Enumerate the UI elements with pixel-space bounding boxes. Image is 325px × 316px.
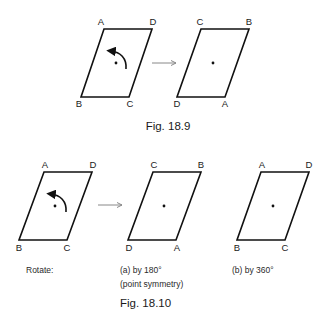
vertex-label: A — [98, 16, 105, 27]
vertex-label: A — [259, 159, 266, 170]
parallelogram-original: A D B C — [76, 16, 157, 109]
vertex-label: A — [222, 98, 229, 109]
vertex-label: B — [198, 159, 204, 170]
vertex-label: C — [197, 16, 204, 27]
diagram-canvas: A D B C C B D A Fig. 18.9 A D B C — [0, 0, 325, 316]
rotation-180-label: (a) by 180° — [120, 265, 162, 275]
center-point — [212, 62, 215, 65]
center-point — [115, 62, 118, 65]
center-point — [163, 205, 166, 208]
vertex-label: C — [151, 159, 158, 170]
vertex-label: A — [174, 242, 181, 253]
figure-caption: Fig. 18.9 — [146, 120, 191, 132]
parallelogram-original: A D B C — [16, 159, 97, 253]
vertex-label: B — [76, 98, 82, 109]
rotation-arrow-icon — [51, 194, 66, 212]
parallelogram-rotated: C B D A — [174, 16, 253, 109]
vertex-label: C — [282, 242, 289, 253]
vertex-label: C — [64, 242, 71, 253]
center-point — [54, 205, 57, 208]
parallelogram-rotated-180: C B D A — [126, 159, 205, 253]
vertex-label: D — [126, 242, 133, 253]
vertex-label: D — [306, 159, 313, 170]
rotation-arrow-icon — [111, 51, 126, 69]
fig-18-9: A D B C C B D A Fig. 18.9 — [76, 16, 252, 132]
parallelogram-rotated-360: A D B C — [234, 159, 313, 253]
rotation-360-label: (b) by 360° — [232, 265, 274, 275]
vertex-label: B — [234, 242, 240, 253]
vertex-label: D — [90, 159, 97, 170]
vertex-label: B — [246, 16, 252, 27]
vertex-label: A — [42, 159, 49, 170]
figure-caption: Fig. 18.10 — [120, 297, 171, 309]
vertex-label: C — [127, 98, 134, 109]
fig-18-10: A D B C C B D A A D B C Rotate: (a) by 1… — [16, 159, 313, 309]
center-point — [272, 205, 275, 208]
rotate-label: Rotate: — [26, 265, 53, 275]
vertex-label: B — [16, 242, 22, 253]
point-symmetry-label: (point symmetry) — [120, 279, 183, 289]
vertex-label: D — [150, 16, 157, 27]
vertex-label: D — [174, 98, 181, 109]
